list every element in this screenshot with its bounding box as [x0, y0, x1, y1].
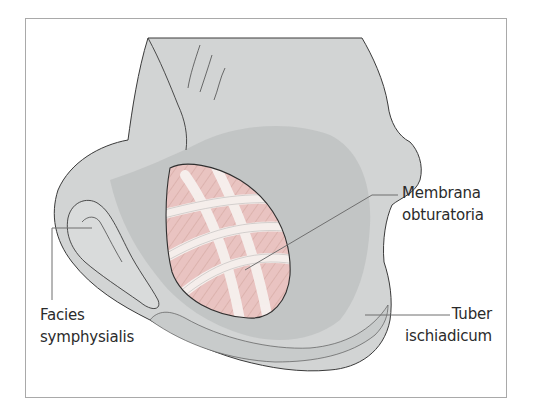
label-membrana-obturatoria: Membrana obturatoria — [402, 182, 484, 226]
figure-stage: Membrana obturatoria Facies symphysialis… — [0, 0, 535, 419]
label-tuber-ischiadicum: Tuber ischiadicum — [390, 303, 492, 347]
label-facies-symphysialis: Facies symphysialis — [40, 304, 134, 348]
